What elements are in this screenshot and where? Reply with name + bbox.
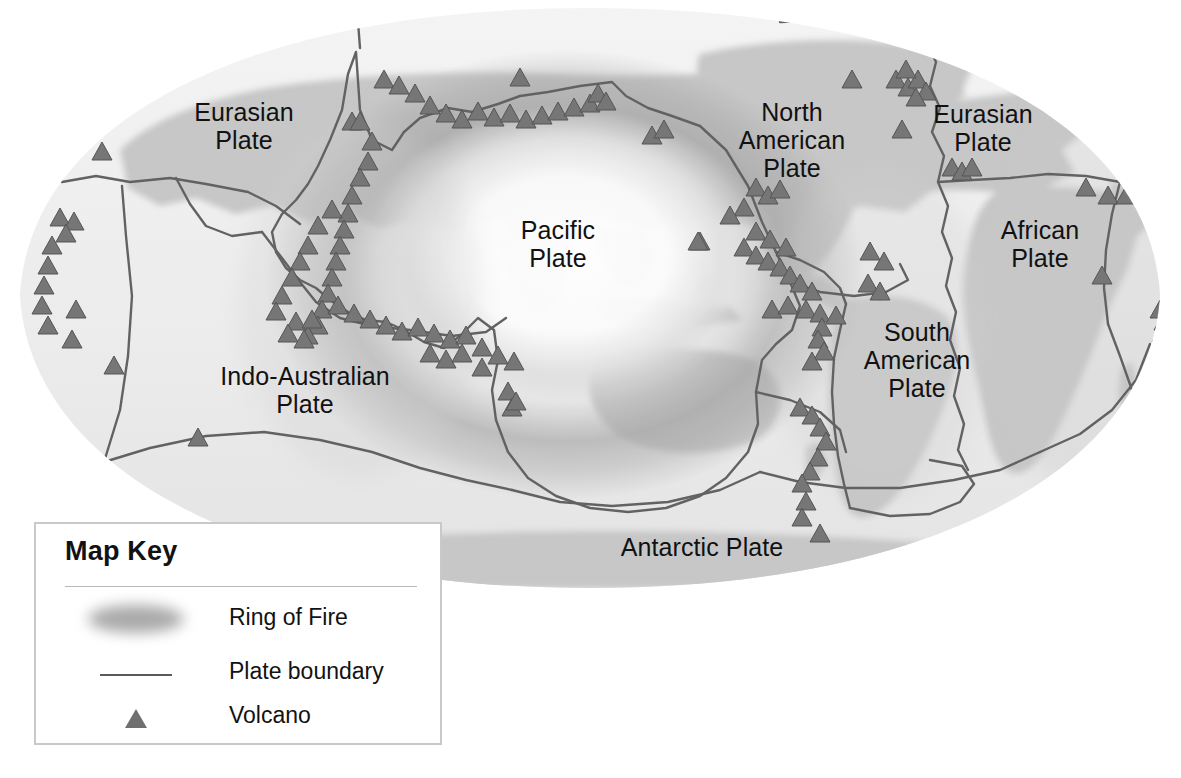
volcano-triangle-swatch [66,696,206,742]
map-key-title: Map Key [65,536,177,567]
key-row-plate-boundary: Plate boundary [36,652,440,698]
map-key-panel: Map Key Ring of Fire Plate boundary Volc… [34,522,442,745]
boundary-north-atlantic-north [780,14,930,22]
map-key-divider [65,586,417,587]
key-label-volcano: Volcano [229,702,311,729]
scan-vignette [0,0,1181,600]
plate-boundary-swatch [66,652,206,698]
ring-of-fire-swatch [66,598,206,644]
globe-body [0,0,1181,600]
key-label-ring-of-fire: Ring of Fire [229,604,348,631]
key-label-plate-boundary: Plate boundary [229,658,384,685]
key-row-ring-of-fire: Ring of Fire [36,598,440,644]
key-row-volcano: Volcano [36,696,440,742]
map-figure: Eurasian Plate Eurasian Plate North Amer… [0,0,1181,778]
